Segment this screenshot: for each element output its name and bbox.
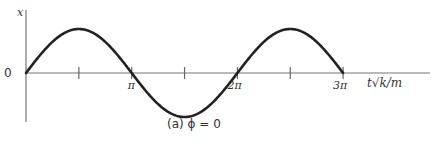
origin-label: 0 bbox=[4, 66, 12, 80]
x-tick-label: 2π bbox=[227, 79, 241, 92]
y-axis-label: x bbox=[17, 6, 23, 19]
figure-caption: (a) ϕ = 0 bbox=[167, 117, 221, 131]
x-tick-label: 3π bbox=[333, 79, 347, 92]
x-tick-label: π bbox=[128, 79, 135, 92]
x-axis-label: t√k/m bbox=[367, 76, 402, 90]
